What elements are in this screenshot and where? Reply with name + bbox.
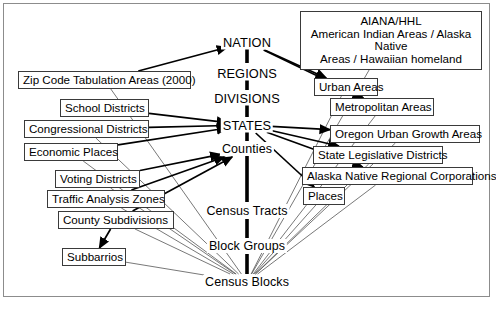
link-states-congressional-districts	[149, 126, 227, 128]
entity-box-traffic-analysis-zones[interactable]: Traffic Analysis Zones	[47, 190, 165, 208]
entity-box-alaska-native-regional-corporations[interactable]: Alaska Native Regional Corporations	[302, 167, 473, 185]
entity-box-aiana-hhl[interactable]: AIANA/HHLAmerican Indian Areas / Alaska …	[300, 11, 482, 70]
entity-box-urban-areas[interactable]: Urban Areas	[314, 78, 378, 96]
entity-box-voting-districts[interactable]: Voting Districts	[55, 170, 140, 188]
hierarchy-node-divisions: DIVISIONS	[212, 91, 282, 106]
hierarchy-node-census-blocks: Census Blocks	[203, 275, 291, 289]
hierarchy-node-block-groups: Block Groups	[207, 239, 287, 253]
entity-box-subbarrios[interactable]: Subbarrios	[62, 248, 126, 266]
link-states-school-districts	[149, 113, 227, 122]
thin-subbarrios-blocks	[126, 262, 204, 275]
link-counties-traffic-analysis	[131, 157, 224, 190]
hierarchy-node-states: STATES	[221, 118, 273, 133]
hierarchy-node-nation: NATION	[221, 35, 273, 50]
entity-box-aiana-hhl-line-2: American Indian Areas / Alaska Native	[306, 28, 476, 53]
link-states-state-legislative	[267, 130, 339, 147]
entity-box-oregon-urban-growth-areas[interactable]: Oregon Urban Growth Areas	[330, 125, 480, 143]
entity-box-county-subdivisions[interactable]: County Subdivisions	[58, 211, 174, 229]
link-nation-zipcode	[138, 47, 227, 71]
entity-box-economic-places[interactable]: Economic Places	[24, 143, 118, 161]
entity-box-aiana-hhl-line-1: AIANA/HHL	[306, 15, 476, 28]
link-states-oregon-urban-growth	[267, 126, 330, 130]
diagram-canvas: NATIONREGIONSDIVISIONSSTATESCountiesCens…	[0, 0, 496, 311]
hierarchy-node-census-tracts: Census Tracts	[204, 204, 289, 218]
entity-box-places[interactable]: Places	[303, 187, 345, 205]
entity-box-state-legislative-districts[interactable]: State Legislative Districts	[313, 146, 443, 164]
hierarchy-node-counties: Counties	[220, 142, 274, 156]
hierarchy-node-regions: REGIONS	[215, 66, 279, 81]
entity-box-zip-code-tabulation-areas[interactable]: Zip Code Tabulation Areas (2000)	[18, 71, 191, 89]
entity-box-aiana-hhl-line-3: Areas / Hawaiian homeland	[306, 53, 476, 66]
entity-box-school-districts[interactable]: School Districts	[60, 99, 149, 117]
entity-box-metropolitan-areas[interactable]: Metropolitan Areas	[330, 98, 434, 116]
entity-box-congressional-districts[interactable]: Congressional Districts	[24, 120, 149, 138]
link-county-subdivisions-subbarrios	[99, 229, 110, 248]
